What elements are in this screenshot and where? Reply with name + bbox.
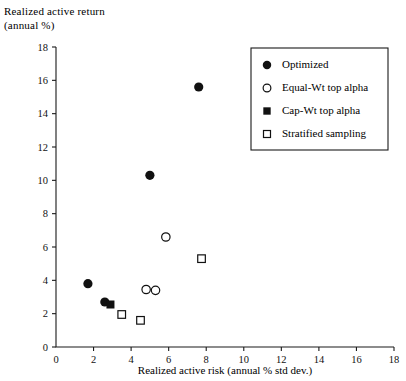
x-tick-label: 18	[389, 354, 400, 365]
y-tick-label: 18	[38, 42, 49, 53]
y-tick-label: 4	[43, 275, 49, 286]
legend-item-label: Optimized	[282, 58, 329, 70]
data-point-filled-circle	[145, 171, 154, 180]
scatter-chart-figure: Realized active return(annual %) 0246810…	[0, 0, 406, 381]
x-axis-title: Realized active risk (annual % std dev.)	[138, 364, 313, 377]
y-tick-label: 14	[38, 108, 49, 119]
series-group	[106, 301, 114, 309]
x-tick-label: 16	[351, 354, 362, 365]
data-point-open-circle	[142, 285, 150, 293]
y-tick-label: 8	[43, 208, 48, 219]
legend-item-label: Stratified sampling	[282, 127, 367, 139]
legend-item-label: Cap-Wt top alpha	[282, 104, 360, 116]
legend-item-label: Equal-Wt top alpha	[282, 81, 368, 93]
data-point-open-square	[118, 311, 126, 319]
data-point-filled-circle	[194, 82, 203, 91]
data-point-open-square	[264, 131, 271, 138]
y-tick-label: 2	[43, 308, 48, 319]
series-group	[118, 255, 205, 324]
series-group	[142, 233, 170, 295]
x-tick-label: 2	[91, 354, 96, 365]
y-tick-label: 10	[38, 175, 49, 186]
data-point-filled-square	[106, 301, 114, 309]
data-point-open-square	[198, 255, 206, 263]
chart-legend[interactable]: OptimizedEqual-Wt top alphaCap-Wt top al…	[251, 48, 388, 150]
data-point-filled-square	[263, 107, 270, 114]
data-point-filled-circle	[83, 279, 92, 288]
y-tick-label: 12	[38, 142, 49, 153]
plot-area: 024681012141618024681012141618 Optimized…	[0, 0, 406, 381]
data-point-open-circle	[263, 84, 271, 92]
data-point-open-circle	[162, 233, 170, 241]
data-points	[83, 82, 205, 324]
x-tick-label: 14	[314, 354, 325, 365]
data-point-filled-circle	[263, 61, 271, 69]
series-group	[83, 82, 203, 306]
x-tick-label: 4	[128, 354, 134, 365]
data-point-open-circle	[151, 286, 159, 294]
y-tick-label: 6	[43, 242, 48, 253]
x-tick-label: 0	[53, 354, 58, 365]
y-tick-label: 16	[38, 75, 49, 86]
data-point-open-square	[137, 317, 145, 325]
y-tick-label: 0	[43, 342, 48, 353]
